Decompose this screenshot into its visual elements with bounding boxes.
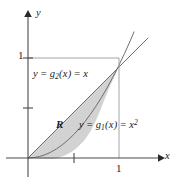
g2-equals-1: = xyxy=(38,68,50,79)
curve-g2-line xyxy=(28,38,148,158)
g1-argument: (x) xyxy=(105,119,117,130)
figure-area-between-curves: y x 1 1 R y = g2(x) = x y = g1(x) = x2 xyxy=(0,0,177,183)
annotation-g2-equation: y = g2(x) = x xyxy=(33,69,88,81)
g1-exponent: 2 xyxy=(134,118,138,127)
region-label-r: R xyxy=(56,119,64,130)
y-axis-tick-label-one: 1 xyxy=(18,50,24,61)
x-axis-arrow-icon xyxy=(158,154,165,162)
g2-equals-2: = xyxy=(71,68,83,79)
g1-equals-1: = xyxy=(84,119,96,130)
x-axis-label: x xyxy=(165,151,170,162)
y-axis-label: y xyxy=(36,8,41,19)
y-axis-arrow-icon xyxy=(24,10,32,17)
x-axis-tick-label-one: 1 xyxy=(116,163,122,174)
plot-canvas xyxy=(0,0,177,183)
g2-right-hand-side: x xyxy=(83,68,88,79)
g2-argument: (x) xyxy=(59,68,71,79)
g1-equals-2: = xyxy=(117,119,129,130)
annotation-g1-equation: y = g1(x) = x2 xyxy=(79,119,138,132)
